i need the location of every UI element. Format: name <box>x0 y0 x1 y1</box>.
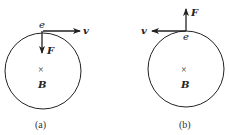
force-label: F <box>190 7 199 18</box>
field-into-page-icon: × <box>181 64 187 75</box>
velocity-label: v <box>141 25 147 36</box>
velocity-label: v <box>83 25 89 36</box>
panel-b: e v F × B (b) <box>141 7 224 131</box>
force-label: F <box>46 45 55 56</box>
field-label: B <box>180 79 189 90</box>
field-label: B <box>37 79 46 90</box>
field-into-page-icon: × <box>38 64 44 75</box>
charge-label: e <box>39 19 45 30</box>
caption: (a) <box>35 119 46 131</box>
diagram: e v F × B (a) e v F × B (b) <box>0 0 229 135</box>
caption: (b) <box>179 119 191 131</box>
panel-a: e v F × B (a) <box>5 19 89 131</box>
charge-label: e <box>183 31 189 42</box>
